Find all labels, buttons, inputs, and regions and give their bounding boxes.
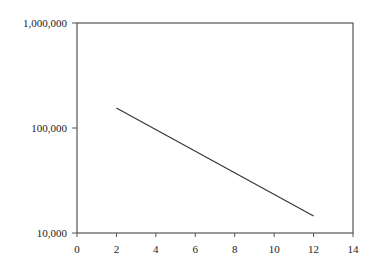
y-tick-label: 1,000,000	[23, 17, 68, 29]
x-tick-label: 0	[74, 243, 80, 255]
y-tick-label: 100,000	[31, 122, 67, 134]
x-tick-label: 10	[269, 243, 281, 255]
series-line	[116, 108, 313, 216]
data-series	[116, 108, 313, 216]
x-tick-label: 14	[348, 243, 360, 255]
x-tick-label: 6	[193, 243, 199, 255]
x-tick-label: 8	[232, 243, 238, 255]
y-tick-label: 10,000	[37, 227, 68, 239]
x-axis: 02468101214	[74, 233, 359, 255]
plot-frame	[77, 23, 353, 233]
plot-border	[77, 23, 353, 233]
y-axis: 10,000100,0001,000,000	[23, 17, 77, 239]
line-chart: 10,000100,0001,000,000 02468101214	[0, 0, 375, 271]
x-tick-label: 2	[114, 243, 120, 255]
x-tick-label: 4	[153, 243, 159, 255]
x-tick-label: 12	[308, 243, 319, 255]
